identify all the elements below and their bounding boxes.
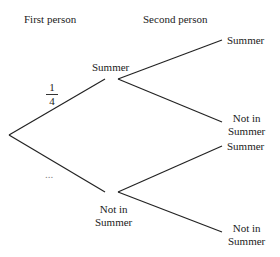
node-label-line1: Not in [228,222,265,235]
branch-root-not-summer [9,135,105,192]
node-first-summer: Summer [92,61,129,74]
node-label-line2: Summer [95,216,132,229]
node-label-line2: Summer [228,125,265,138]
node-label-line1: Not in [228,112,265,125]
branch-not-summer-summer [118,146,222,192]
node-second-summer-summer: Summer [227,34,264,47]
branch-not-summer-not-summer [118,192,222,232]
node-label-line2: Summer [228,235,265,248]
node-label-line1: Not in [95,203,132,216]
header-second-person: Second person [143,13,207,26]
probability-numerator: 1 [46,82,58,93]
probability-summer: 1 4 [46,82,58,107]
node-second-summer-not-summer: Not in Summer [228,112,265,138]
node-second-not-summer-not-summer: Not in Summer [228,222,265,248]
header-first-person: First person [24,13,76,26]
node-second-not-summer-summer: Summer [227,140,264,153]
branch-summer-not-summer [118,79,222,122]
probability-denominator: 4 [46,96,58,107]
node-first-not-summer: Not in Summer [95,203,132,229]
branch-summer-summer [118,40,222,79]
probability-not-summer: ... [45,168,53,181]
